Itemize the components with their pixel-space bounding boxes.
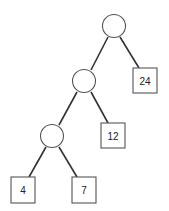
- leaf-node-4: 4: [11, 177, 35, 203]
- leaf-label: 24: [139, 76, 151, 87]
- edge-n1-n2: [59, 92, 77, 125]
- tree-diagram: 24 12 4 7: [0, 0, 169, 211]
- leaf-label: 12: [107, 131, 119, 142]
- leaf-node-12: 12: [101, 123, 125, 148]
- internal-node-1: [73, 70, 96, 93]
- leaf-node-7: 7: [72, 177, 96, 203]
- internal-node-2: [41, 125, 64, 148]
- leaf-label: 4: [20, 185, 26, 196]
- edge-root-leaf-24: [120, 37, 139, 68]
- leaf-label: 7: [81, 185, 87, 196]
- edge-n1-leaf-12: [91, 92, 108, 123]
- edge-root-n1: [91, 37, 108, 70]
- leaf-node-24: 24: [133, 68, 157, 93]
- edge-n2-leaf-7: [59, 147, 77, 177]
- edge-n2-leaf-4: [29, 147, 46, 177]
- internal-node-root: [103, 15, 126, 38]
